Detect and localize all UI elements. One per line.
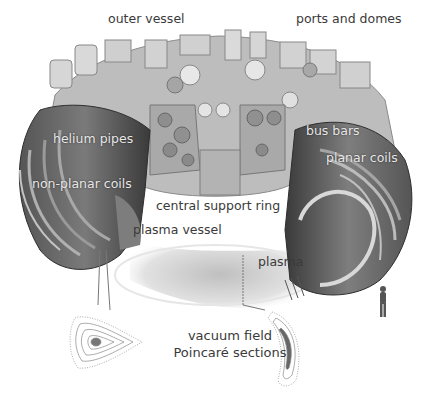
- label-ports-and-domes: ports and domes: [296, 12, 402, 26]
- label-planar-coils: planar coils: [326, 151, 398, 165]
- plasma-band: [115, 240, 315, 308]
- label-helium-pipes: helium pipes: [53, 132, 133, 146]
- label-central-support-ring: central support ring: [156, 199, 280, 213]
- poincare-caption: vacuum field Poincaré sections: [160, 327, 300, 361]
- label-outer-vessel: outer vessel: [108, 12, 185, 26]
- label-plasma-vessel: plasma vessel: [133, 223, 222, 237]
- label-bus-bars: bus bars: [306, 124, 360, 138]
- label-plasma: plasma: [258, 255, 303, 269]
- poincare-section-triangle: [70, 317, 142, 368]
- caption-line-1: vacuum field: [160, 327, 300, 344]
- label-non-planar-coils: non-planar coils: [32, 177, 132, 191]
- caption-line-2: Poincaré sections: [160, 344, 300, 361]
- human-figure: [380, 286, 386, 317]
- stellarator-diagram: outer vessel ports and domes helium pipe…: [0, 0, 428, 401]
